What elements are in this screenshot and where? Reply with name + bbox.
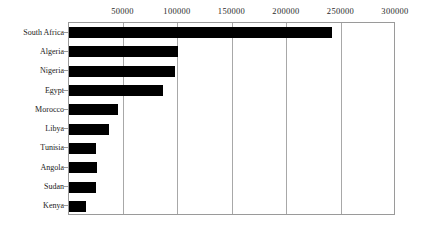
bar-egypt	[69, 85, 163, 96]
y-tick-label-nigeria: Nigeria	[0, 66, 64, 75]
bar-tunisia	[69, 143, 96, 154]
bar-morocco	[69, 104, 118, 115]
x-tick-label: 250000	[327, 6, 354, 16]
bar-nigeria	[69, 66, 175, 77]
y-tick-label-libya: Libya	[0, 124, 64, 133]
bar-chart: South AfricaAlgeriaNigeriaEgyptMoroccoLi…	[0, 0, 427, 235]
y-tick-label-morocco: Morocco	[0, 104, 64, 113]
x-tick-label: 50000	[111, 6, 134, 16]
bar-kenya	[69, 201, 86, 212]
y-tick-label-south-africa: South Africa	[0, 27, 64, 36]
x-tick-label: 200000	[272, 6, 299, 16]
bar-libya	[69, 124, 109, 135]
bar-angola	[69, 162, 97, 173]
y-tick-label-angola: Angola	[0, 162, 64, 171]
bar-sudan	[69, 182, 96, 193]
y-tick-label-tunisia: Tunisia	[0, 143, 64, 152]
plot-area	[68, 22, 395, 215]
y-tick-label-sudan: Sudan	[0, 182, 64, 191]
y-tick-label-egypt: Egypt	[0, 85, 64, 94]
x-tick-label: 300000	[381, 6, 408, 16]
x-tick-label: 100000	[163, 6, 190, 16]
gridline-150000	[232, 23, 233, 214]
y-tick-label-algeria: Algeria	[0, 46, 64, 55]
bar-south-africa	[69, 27, 332, 38]
gridline-250000	[341, 23, 342, 214]
x-tick-label: 150000	[218, 6, 245, 16]
bar-algeria	[69, 46, 178, 57]
gridline-200000	[286, 23, 287, 214]
y-tick-label-kenya: Kenya	[0, 201, 64, 210]
